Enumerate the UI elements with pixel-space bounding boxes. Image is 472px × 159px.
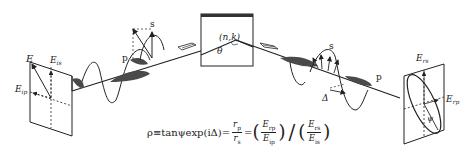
reflected-p-label: p	[376, 72, 382, 82]
e-rp-label: Erp	[445, 94, 459, 106]
formula-lhs: ρ≡tanψexp(iΔ)=	[147, 127, 230, 138]
incidence-angle-label: θ	[217, 46, 223, 56]
incident-polarization-plane: E Eis Eip	[14, 53, 72, 136]
phase-delta-label: Δ	[321, 93, 329, 103]
reflected-s-label: s	[329, 41, 334, 51]
psi-label: ψ	[427, 114, 434, 123]
fraction-erp-eip: Erp Eip	[261, 120, 276, 144]
e-is-label: Eis	[49, 55, 62, 66]
e-label: E	[25, 53, 34, 64]
e-rs-label: Ers	[415, 53, 429, 64]
reflected-p-lobe	[280, 57, 318, 67]
sample-block: (n,k) θ	[201, 14, 253, 66]
incident-p-label: p	[122, 53, 128, 63]
e-vector-arrow	[32, 64, 51, 98]
reflected-direction-arrow-icon	[260, 43, 278, 49]
reflected-beam	[236, 40, 400, 98]
reflected-polarization-plane: Ers Erp ψ	[401, 53, 460, 144]
fraction-ers-eis: Ers Eis	[307, 120, 321, 144]
incident-direction-arrow-icon	[178, 43, 196, 50]
incident-s-label: s	[150, 19, 155, 29]
ellipsometry-formula: ρ≡tanψexp(iΔ)= rp rs = ( Erp Eip ) / ( E…	[147, 120, 330, 144]
fraction-rp-rs: rp rs	[232, 120, 242, 144]
e-ip-label: Eip	[14, 84, 27, 96]
